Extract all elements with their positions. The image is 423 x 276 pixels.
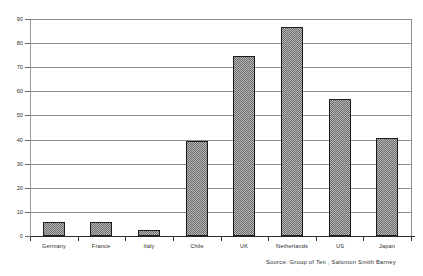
plot-area [30,19,411,236]
y-tick-label: 20 [5,185,23,191]
y-tick-label: 70 [5,64,23,70]
source-note: Source: Group of Ten , Salomon Smith Bar… [266,259,396,265]
bar-chart-figure: 0102030405060708090 GermanyFranceItalyCh… [0,0,423,276]
x-tick-mark [316,237,317,241]
bar [43,222,65,236]
x-tick-mark [363,237,364,241]
gridline [30,19,411,20]
bar [329,99,351,236]
y-tick-label: 60 [5,88,23,94]
y-tick-mark [25,212,31,213]
x-tick-label: Germany [42,243,66,250]
gridline [30,115,411,116]
y-tick-mark [25,43,31,44]
gridline [30,43,411,44]
y-tick-mark [25,140,31,141]
y-tick-mark [25,115,31,116]
bar [376,138,398,236]
gridline [30,140,411,141]
y-tick-label: 80 [5,40,23,46]
x-tick-label: UK [240,243,248,250]
plot-right-spine [411,19,412,237]
x-tick-label: US [336,243,344,250]
y-tick-mark [25,19,31,20]
bar [138,230,160,236]
bar [233,56,255,236]
y-tick-mark [25,91,31,92]
gridline [30,188,411,189]
x-tick-mark [268,237,269,241]
y-tick-label: 40 [5,137,23,143]
x-tick-label: Chile [190,243,204,250]
bar [186,141,208,236]
x-tick-label: Italy [143,243,154,250]
x-tick-mark [173,237,174,241]
x-tick-label: Netherlands [276,243,308,250]
gridline [30,91,411,92]
x-tick-label: Japan [379,243,395,250]
y-tick-label: 90 [5,16,23,22]
y-tick-mark [25,164,31,165]
x-tick-mark [221,237,222,241]
bar [281,27,303,236]
y-tick-label: 10 [5,209,23,215]
x-tick-mark [125,237,126,241]
x-tick-label: France [92,243,110,250]
y-tick-label: 50 [5,112,23,118]
gridline [30,67,411,68]
y-axis-spine [30,19,31,237]
gridline [30,212,411,213]
gridline [30,164,411,165]
x-tick-mark [411,237,412,241]
bar [90,222,112,236]
y-tick-mark [25,188,31,189]
y-tick-label: 0 [5,233,23,239]
x-tick-mark [30,237,31,241]
y-tick-mark [25,67,31,68]
y-tick-label: 30 [5,161,23,167]
x-tick-mark [78,237,79,241]
